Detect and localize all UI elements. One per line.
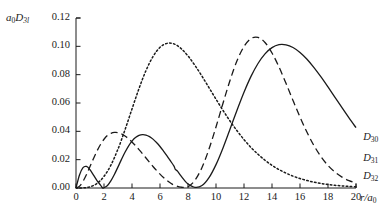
- curves-group: [76, 37, 356, 188]
- radial-distribution-chart: a0D3l r/a0 0.000.020.040.060.080.100.120…: [0, 0, 387, 216]
- y-tick-marks: [76, 18, 81, 188]
- plot-svg: [0, 0, 387, 216]
- axes-group: [76, 18, 356, 188]
- curve-D30: [76, 44, 356, 188]
- x-tick-marks: [76, 184, 356, 189]
